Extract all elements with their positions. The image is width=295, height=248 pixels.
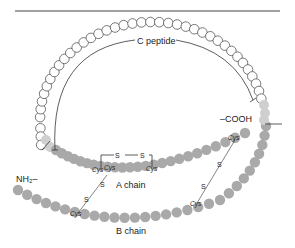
a-chain-residue xyxy=(211,141,221,151)
b-chain-residue xyxy=(109,212,119,222)
c-peptide-residue xyxy=(110,23,120,33)
a-chain-residue xyxy=(183,151,193,161)
sulfur-atom: S xyxy=(140,152,145,159)
cys-residue: Cys xyxy=(228,134,240,142)
b-chain-residue xyxy=(89,210,99,220)
cleavage-residue xyxy=(259,115,269,125)
b-chain-residue xyxy=(22,190,32,200)
b-chain-residue xyxy=(254,149,264,159)
c-peptide-residue xyxy=(146,17,156,27)
b-chain-residue xyxy=(150,211,160,221)
b-chain-residue xyxy=(161,209,171,219)
b-chain-residue xyxy=(41,198,51,208)
b-chain-label: B chain xyxy=(116,226,146,236)
cys-residue: Cys xyxy=(146,165,158,173)
b-chain-residue xyxy=(119,213,129,223)
c-peptide-label: C peptide xyxy=(137,36,176,46)
cys-residue: Cys xyxy=(104,164,116,172)
cys-residue: Cys xyxy=(92,166,104,174)
a-chain-label: A chain xyxy=(116,180,146,190)
c-peptide-residue xyxy=(172,20,182,30)
b-chain-residue xyxy=(172,207,182,217)
proinsulin-diagram: C peptide S S S S S S Cys Cys Cys Cys Cy… xyxy=(0,0,295,248)
b-chain-residue xyxy=(215,195,225,205)
b-chain-residue xyxy=(257,140,267,150)
b-chain-residue xyxy=(204,199,214,209)
cys-residue: Cys xyxy=(70,210,82,218)
b-chain-residue xyxy=(31,194,41,204)
sulfur-atom: S xyxy=(217,161,222,168)
a-chain-residue xyxy=(240,128,250,138)
b-chain-residue xyxy=(99,212,109,222)
c-peptide-bracket-end-right xyxy=(250,98,256,102)
c-peptide-residue xyxy=(128,19,138,29)
sulfur-atom: S xyxy=(84,196,89,203)
b-chain-residue xyxy=(13,185,23,195)
c-peptide-residue xyxy=(137,18,147,28)
n-terminus-label: NH₂– xyxy=(16,174,38,184)
c-peptide-residue xyxy=(164,18,174,28)
c-peptide-residue xyxy=(155,17,165,27)
b-chain-residue xyxy=(130,212,140,222)
b-chain-residue xyxy=(60,204,70,214)
b-chain-residue xyxy=(140,212,150,222)
a-chain-residue xyxy=(174,154,184,164)
c-peptide-bracket-right xyxy=(176,40,253,100)
a-chain-residue xyxy=(192,148,202,158)
cys-residue: Cys xyxy=(190,200,202,208)
sulfur-atom: S xyxy=(201,183,206,190)
c-terminus-label: –COOH xyxy=(220,114,252,124)
a-chain-residue xyxy=(201,145,211,155)
b-chain-residue xyxy=(50,201,60,211)
c-peptide-residue xyxy=(119,20,129,30)
sulfur-atom: S xyxy=(100,181,105,188)
sulfur-atom: S xyxy=(115,152,120,159)
b-chain-residue xyxy=(259,130,269,140)
b-chain-residue xyxy=(224,188,234,198)
